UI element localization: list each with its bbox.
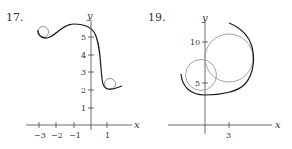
y-tick-label: 2 xyxy=(81,86,86,95)
y-tick-label: 1 xyxy=(81,104,86,113)
x-tick-label: −1 xyxy=(69,131,81,140)
y-tick-label: 5 xyxy=(81,33,86,42)
parametric-curve xyxy=(38,24,122,89)
y-tick-label: 5 xyxy=(195,79,200,88)
y-axis-label: y xyxy=(201,12,208,23)
figure-canvas: 17. x y −3 −2 −1 1 1 2 3 4 5 xyxy=(0,0,292,149)
y-tick-label: 10 xyxy=(190,38,200,47)
y-axis-label: y xyxy=(86,10,93,21)
y-tick-label: 4 xyxy=(81,51,86,60)
circle-large xyxy=(205,34,253,82)
x-tick-label: 1 xyxy=(105,131,110,140)
figure-19: 19. x y 3 5 10 xyxy=(148,11,281,140)
figure-17: 17. x y −3 −2 −1 1 1 2 3 4 5 xyxy=(6,10,140,140)
x-tick-label: −3 xyxy=(34,131,46,140)
parametric-curve xyxy=(181,23,254,95)
figure-19-label: 19. xyxy=(148,11,166,24)
x-tick-label: −2 xyxy=(51,131,63,140)
y-tick-label: 3 xyxy=(81,68,86,77)
x-tick-label: 3 xyxy=(226,131,231,140)
figure-17-label: 17. xyxy=(6,11,24,24)
x-axis-label: x xyxy=(275,119,281,130)
x-axis-label: x xyxy=(134,119,140,130)
loop-left xyxy=(38,27,49,38)
